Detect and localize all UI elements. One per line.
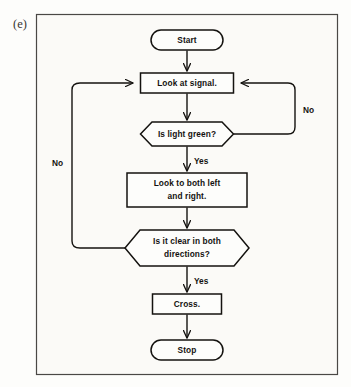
figure-label: (e): [13, 17, 27, 31]
node-look-both-label-line1: Look to both left: [154, 178, 221, 188]
flowchart-figure: (e) Start Look at signal. Is light green…: [0, 0, 351, 387]
node-look-both-label-line2: and right.: [168, 191, 207, 201]
edge-label-no-green: No: [303, 105, 314, 115]
node-is-clear-label-line2: directions?: [164, 249, 210, 259]
node-is-light-green-label: Is light green?: [158, 129, 216, 139]
node-cross-label: Cross.: [174, 299, 200, 309]
node-look-at-signal-label: Look at signal.: [157, 78, 217, 88]
edge-label-yes-green: Yes: [194, 156, 209, 166]
flowchart-canvas: (e) Start Look at signal. Is light green…: [0, 0, 351, 387]
node-is-clear-label-line1: Is it clear in both: [153, 236, 221, 246]
node-start-label: Start: [177, 35, 197, 45]
edge-label-no-clear: No: [52, 158, 63, 168]
edge-label-yes-clear: Yes: [194, 276, 209, 286]
node-stop-label: Stop: [178, 345, 197, 355]
